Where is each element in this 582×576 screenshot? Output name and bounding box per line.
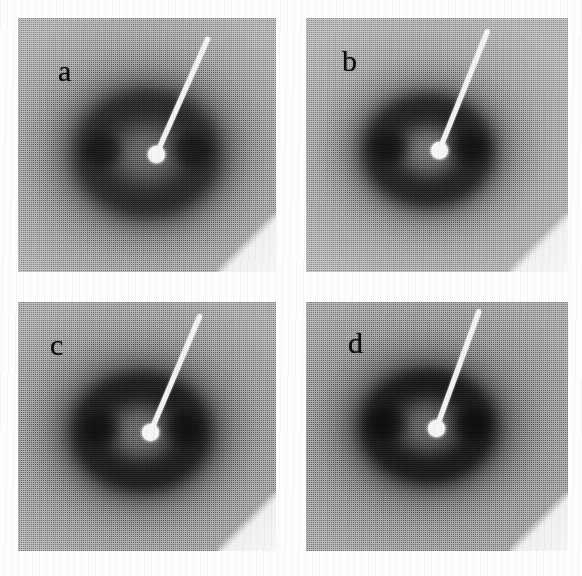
corner-wedge-c <box>218 493 276 551</box>
panel-label-d: d <box>348 328 363 358</box>
diffraction-panel-c: c <box>18 302 276 551</box>
beamstop-dot-a <box>148 146 165 163</box>
corner-wedge-a <box>218 214 276 272</box>
panel-label-b: b <box>342 46 357 76</box>
diffraction-panel-a: a <box>18 18 276 272</box>
corner-wedge-d <box>510 493 568 551</box>
diffraction-panel-b: b <box>306 18 568 272</box>
diffraction-figure: abcd <box>0 0 582 576</box>
beamstop-dot-d <box>428 420 445 437</box>
beamstop-dot-c <box>142 424 159 441</box>
panel-label-a: a <box>58 56 71 86</box>
diffraction-panel-d: d <box>306 302 568 551</box>
corner-wedge-b <box>510 214 568 272</box>
panel-label-c: c <box>50 330 63 360</box>
beamstop-dot-b <box>431 142 448 159</box>
